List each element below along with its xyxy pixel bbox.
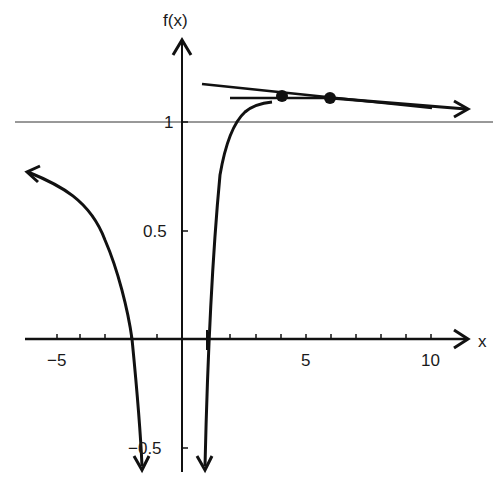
tick-label-10: 10: [421, 351, 440, 370]
tick-label-0-5: 0.5: [143, 222, 167, 241]
tick-label-1: 1: [164, 113, 173, 132]
x-axis: [25, 330, 468, 348]
tick-label-5: 5: [301, 351, 310, 370]
y-axis-label: f(x): [163, 11, 188, 30]
point-a: [276, 90, 288, 102]
curve-right-branch: [205, 102, 272, 466]
tick-label-neg0-5: −0.5: [128, 439, 162, 458]
x-axis-label: x: [478, 332, 487, 351]
tick-label-neg5: −5: [47, 351, 66, 370]
curve-left-branch: [28, 172, 142, 466]
y-axis: [173, 40, 191, 472]
function-graph: f(x) x −5 5 10 1 0.5 −0.5: [0, 0, 493, 488]
curve-tail: [330, 98, 466, 109]
point-b: [324, 92, 336, 104]
